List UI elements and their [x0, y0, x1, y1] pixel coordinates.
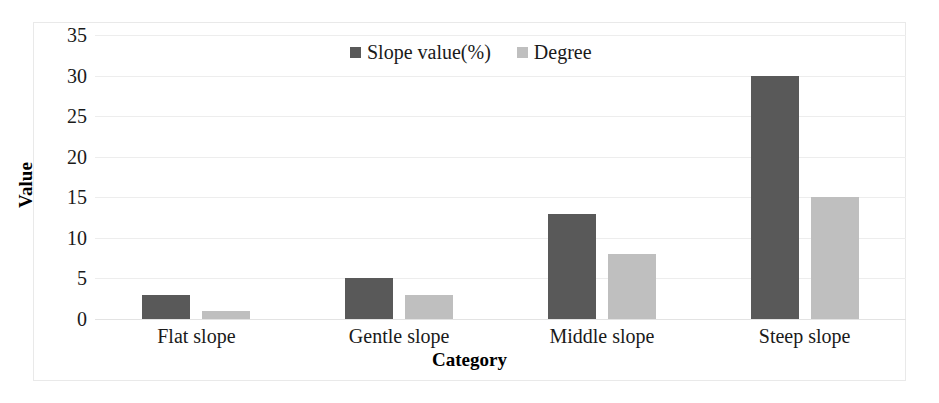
legend-swatch-icon: [517, 47, 528, 58]
legend-item-degree: Degree: [517, 42, 592, 62]
bar: [405, 295, 453, 319]
legend-label: Slope value(%): [367, 42, 491, 62]
bar: [142, 295, 190, 319]
chart-legend: Slope value(%) Degree: [350, 42, 592, 62]
bar: [345, 278, 393, 319]
legend-swatch-icon: [350, 47, 361, 58]
bar: [548, 214, 596, 319]
plot-area: [95, 35, 906, 319]
bar: [608, 254, 656, 319]
y-axis-tick-label: 0: [77, 309, 87, 329]
y-axis-tick-label: 30: [67, 66, 87, 86]
x-axis-title: Category: [0, 349, 939, 371]
bar: [751, 76, 799, 319]
y-axis-tick-label: 15: [67, 187, 87, 207]
x-axis-tick-label: Steep slope: [759, 325, 851, 348]
bar: [811, 197, 859, 319]
legend-item-slope-value: Slope value(%): [350, 42, 491, 62]
y-axis-tick-label: 10: [67, 228, 87, 248]
y-axis-tick-label: 20: [67, 147, 87, 167]
x-axis-tick-label: Middle slope: [549, 325, 654, 348]
x-axis-tick-label: Flat slope: [157, 325, 235, 348]
y-axis-tick-label: 5: [77, 268, 87, 288]
y-axis-tick-label: 35: [67, 25, 87, 45]
gridline: [95, 319, 906, 320]
y-axis-tick-label: 25: [67, 106, 87, 126]
bar-chart: Value 05101520253035 Flat slopeGentle sl…: [0, 0, 939, 403]
x-axis-tick-label: Gentle slope: [349, 325, 450, 348]
y-axis-ticks: 05101520253035: [33, 35, 93, 319]
bar-series-container: [95, 35, 906, 319]
legend-label: Degree: [534, 42, 592, 62]
bar: [202, 311, 250, 319]
